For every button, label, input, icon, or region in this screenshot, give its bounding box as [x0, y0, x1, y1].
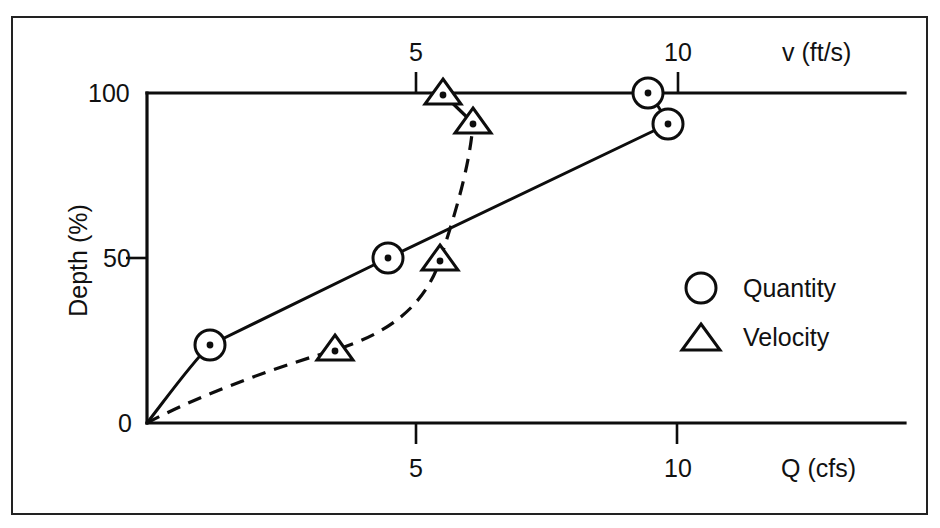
series-line-quantity — [147, 124, 668, 423]
marker-quantity-4 — [633, 78, 663, 108]
series-line-velocity — [147, 123, 473, 423]
y-tick-label-0: 0 — [118, 411, 132, 436]
legend-marker-quantity — [686, 273, 716, 303]
x-top-tick-label-5: 5 — [409, 40, 423, 65]
chart-canvas — [0, 0, 940, 528]
x-top-axis-title: v (ft/s) — [782, 40, 851, 65]
x-bottom-tick-label-5: 5 — [409, 456, 423, 481]
marker-quantity-1 — [195, 330, 225, 360]
x-bottom-tick-label-10: 10 — [664, 456, 692, 481]
legend-marker-velocity — [682, 324, 720, 350]
y-tick-label-100: 100 — [88, 81, 130, 106]
marker-quantity-3 — [653, 109, 683, 139]
marker-velocity-2 — [422, 245, 458, 270]
chart-figure: Depth (%) 100 50 0 5 10 v (ft/s) 5 10 Q … — [0, 0, 940, 528]
marker-velocity-1 — [317, 335, 353, 360]
x-bottom-axis-title: Q (cfs) — [781, 456, 856, 481]
y-axis-title: Depth (%) — [64, 161, 93, 361]
legend-label-velocity: Velocity — [743, 325, 829, 350]
x-top-tick-label-10: 10 — [664, 40, 692, 65]
y-tick-label-50: 50 — [103, 246, 131, 271]
marker-quantity-2 — [373, 243, 403, 273]
marker-group-velocity — [317, 79, 491, 360]
legend-label-quantity: Quantity — [743, 276, 836, 301]
